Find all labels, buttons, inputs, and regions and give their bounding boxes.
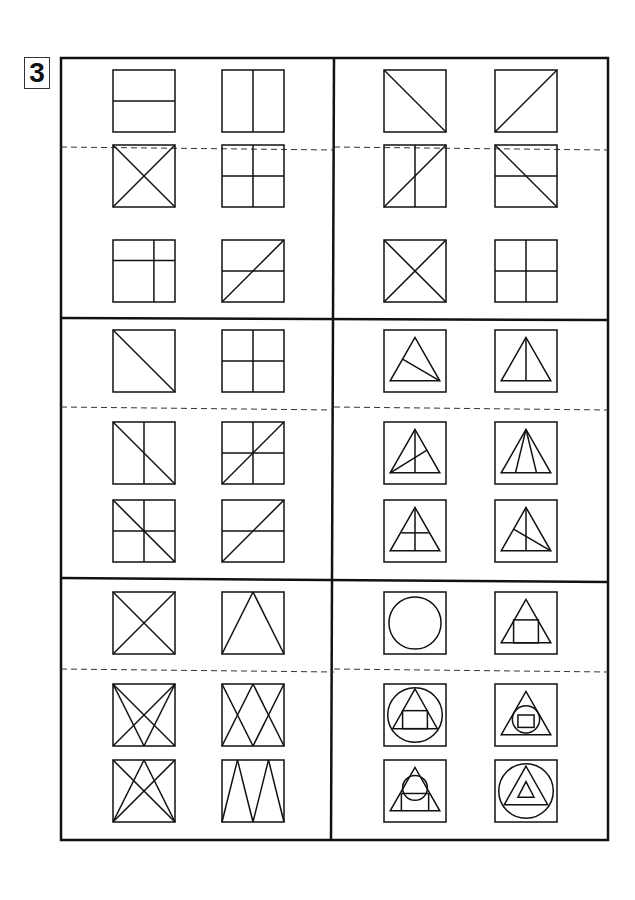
- figure-cross[interactable]: [222, 330, 284, 392]
- figure-circle[interactable]: [384, 592, 446, 654]
- figure-cross-offset[interactable]: [113, 240, 175, 302]
- puzzle-sheet: [0, 0, 635, 900]
- figure-diag-up[interactable]: [495, 70, 557, 132]
- dashed-separator: [61, 147, 334, 150]
- figure-tri-three-lines[interactable]: [495, 422, 557, 484]
- figure-cross[interactable]: [495, 240, 557, 302]
- figure-vline[interactable]: [222, 70, 284, 132]
- row-divider-2: [61, 578, 608, 582]
- figure-tri-circle-rect[interactable]: [495, 684, 557, 746]
- figure-tri-median-cevian[interactable]: [384, 422, 446, 484]
- figure-x-w[interactable]: [222, 684, 284, 746]
- figure-circle-tri-rect[interactable]: [384, 684, 446, 746]
- figure-x[interactable]: [113, 592, 175, 654]
- dashed-separator: [61, 669, 334, 672]
- figure-tri-circle-top[interactable]: [384, 760, 446, 822]
- figure-x[interactable]: [113, 145, 175, 207]
- figure-diag-down[interactable]: [384, 70, 446, 132]
- figure-hline[interactable]: [113, 70, 175, 132]
- figure-diag-up-vline[interactable]: [384, 145, 446, 207]
- panel-1: [61, 70, 334, 302]
- figure-tri-median-hline[interactable]: [384, 500, 446, 562]
- figure-tri-median-cevian-left[interactable]: [495, 500, 557, 562]
- figure-tri-rect[interactable]: [495, 592, 557, 654]
- figure-x-double-v[interactable]: [113, 684, 175, 746]
- figure-x-tri-apex[interactable]: [113, 760, 175, 822]
- figure-diag-down-vline[interactable]: [113, 422, 175, 484]
- dashed-separator: [334, 147, 608, 150]
- figure-w-zigzag[interactable]: [222, 760, 284, 822]
- figure-tri-median[interactable]: [495, 330, 557, 392]
- panel-3: [61, 330, 334, 562]
- panel-4: [334, 330, 608, 562]
- column-divider: [331, 58, 334, 840]
- row-divider-1: [61, 318, 608, 320]
- dashed-separator: [334, 407, 608, 410]
- figure-diag-up-cross[interactable]: [222, 422, 284, 484]
- panel-6: [334, 592, 608, 822]
- figure-diag-down-hline[interactable]: [495, 145, 557, 207]
- figure-diag-down-cross[interactable]: [113, 500, 175, 562]
- figure-tri-apex[interactable]: [222, 592, 284, 654]
- figure-x[interactable]: [384, 240, 446, 302]
- panel-5: [61, 592, 334, 822]
- dashed-separator: [334, 669, 608, 672]
- panel-2: [334, 70, 608, 302]
- figure-tri-cevian-left[interactable]: [384, 330, 446, 392]
- figure-diag-up-hline[interactable]: [222, 240, 284, 302]
- figure-cross[interactable]: [222, 145, 284, 207]
- figure-diag-down[interactable]: [113, 330, 175, 392]
- figure-diag-up-hline[interactable]: [222, 500, 284, 562]
- figure-circle-tri-tri[interactable]: [495, 760, 557, 822]
- dashed-separator: [61, 407, 334, 410]
